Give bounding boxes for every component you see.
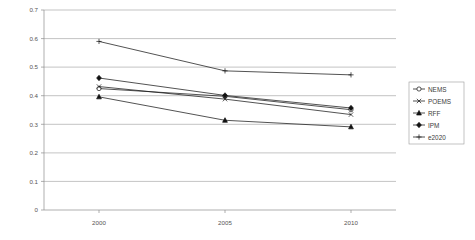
legend-item-label: RFF	[428, 110, 441, 117]
y-axis-tick-label: 0.3	[29, 121, 38, 128]
x-axis-tick-label: 2005	[218, 219, 232, 226]
chart-legend[interactable]: NEMS POEMS RFF IPM e2020	[409, 82, 464, 144]
x-axis-tick-label: 2000	[92, 219, 106, 226]
legend-item-label: NEMS	[428, 86, 446, 93]
legend-icon-circle-open	[417, 87, 421, 91]
x-axis-tick-label: 2010	[344, 219, 358, 226]
y-axis-tick-label: 0.5	[29, 63, 38, 70]
legend-item-label: e2020	[428, 134, 446, 141]
line-chart: 0.7 0.6 0.5 0.4 0.3 0.2 0.1 0 2000 2005 …	[0, 0, 475, 240]
plot-area	[44, 10, 396, 210]
data-point-nems-2000	[97, 86, 101, 90]
y-axis-tick-label: 0.1	[29, 178, 38, 185]
y-axis-tick-label: 0.7	[29, 6, 38, 13]
y-axis-tick-label: 0.6	[29, 35, 38, 42]
y-axis-tick-label: 0	[35, 206, 39, 213]
chart-canvas: 0.7 0.6 0.5 0.4 0.3 0.2 0.1 0 2000 2005 …	[0, 0, 475, 240]
legend-item-label: IPM	[428, 122, 439, 129]
legend-item-label: POEMS	[428, 98, 451, 105]
y-axis-tick-label: 0.2	[29, 149, 38, 156]
y-axis-tick-label: 0.4	[29, 92, 38, 99]
